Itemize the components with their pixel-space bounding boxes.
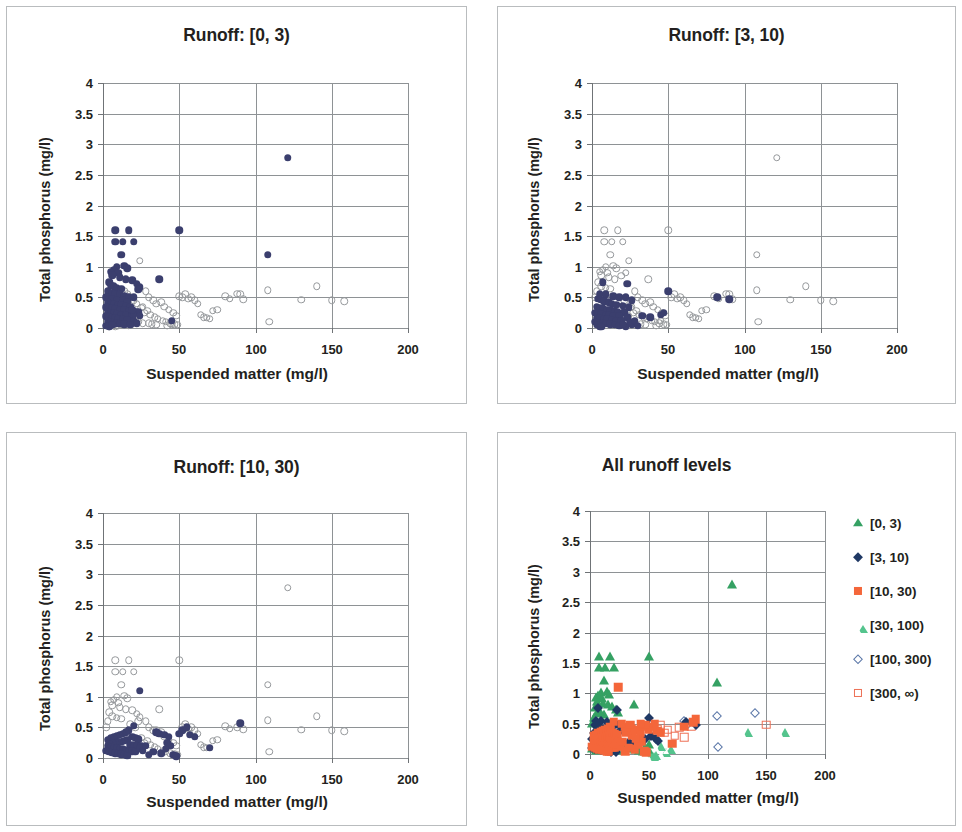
x-axis-tick-label: 150 [321,772,343,787]
gridline-vertical [766,511,767,754]
x-axis-tick-label: 200 [397,342,419,357]
y-axis-tick-label: 0 [57,751,93,766]
gridline-vertical [708,511,709,754]
data-point-filled-circle [646,313,654,321]
y-axis-label: Total phosphorus (mg/l) [37,566,53,731]
data-point-open-circle [111,668,119,676]
y-axis-tick-label: 2.5 [544,595,580,610]
data-point-filled-circle [191,733,199,741]
data-point-filled-square [680,722,689,731]
data-point-filled-square [853,587,861,595]
legend-item-label: [0, 3) [870,516,902,531]
x-axis-tick [590,754,591,759]
data-point-filled-square [636,719,645,728]
data-point-open-circle [119,668,127,676]
chart-panel-all-runoff-levels: All runoff levels Total phosphorus (mg/l… [497,432,956,826]
legend-item[interactable]: [300, ∞) [850,685,919,701]
legend-item-label: [3, 10) [870,550,909,565]
y-axis-tick-label: 1.5 [544,656,580,671]
data-point-open-circle [611,275,619,283]
x-axis-tick-label: 100 [245,342,267,357]
y-axis-tick-label: 0.5 [57,720,93,735]
data-point-filled-triangle [609,663,619,672]
y-axis-tick-label: 3 [57,137,93,152]
data-point-open-circle [265,748,273,756]
legend-item-label: [10, 30) [870,584,917,599]
legend-item[interactable]: [10, 30) [850,583,917,599]
legend-item[interactable]: [0, 3) [850,515,902,531]
gridline-vertical [256,83,257,328]
data-point-open-circle [226,725,234,733]
x-axis-tick-label: 150 [810,342,832,357]
data-point-filled-circle [168,317,176,325]
gridline-vertical [821,83,822,328]
data-point-open-circle [118,715,126,723]
y-axis-tick-label: 2 [57,199,93,214]
x-axis-tick-label: 0 [588,342,595,357]
data-point-filled-circle [156,275,164,283]
x-axis-tick [766,754,767,759]
gridline-vertical [745,83,746,328]
y-axis-tick-label: 1 [544,686,580,701]
gridline-vertical [332,513,333,758]
data-point-filled-square [632,735,641,744]
y-axis-tick-label: 3.5 [57,107,93,122]
y-axis-tick-label: 0 [546,321,582,336]
data-point-open-circle [264,681,272,689]
data-point-open-circle [753,286,761,294]
y-axis-tick-label: 2.5 [57,168,93,183]
data-point-open-circle [284,584,292,592]
data-point-filled-circle [119,238,127,246]
data-point-open-circle [240,295,248,303]
data-point-open-circle [608,238,616,246]
data-point-filled-circle [597,323,605,331]
y-axis-label: Total phosphorus (mg/l) [37,137,53,302]
data-point-open-circle [829,297,837,305]
data-point-filled-circle [165,733,173,741]
data-point-open-circle [264,716,272,724]
data-point-open-circle [600,238,608,246]
data-point-filled-circle [118,251,126,259]
data-point-filled-circle [124,264,132,272]
data-point-open-circle [328,297,336,305]
data-point-open-circle [773,154,781,162]
y-axis-tick-label: 2.5 [546,168,582,183]
four-panel-scatter-figure: Runoff: [0, 3) Total phosphorus (mg/l) 0… [0,0,962,832]
y-axis-tick-label: 2 [544,626,580,641]
data-point-filled-circle [713,294,721,302]
gridline-vertical [825,511,826,754]
data-point-open-circle [695,315,703,323]
data-point-open-circle [613,264,621,272]
x-axis-tick [708,754,709,759]
data-point-filled-square [656,728,665,737]
x-axis-tick-label: 200 [397,772,419,787]
data-point-filled-triangle [599,676,609,685]
y-axis-tick-label: 3.5 [546,107,582,122]
data-point-open-circle [313,713,321,721]
y-axis-tick-label: 0.5 [546,290,582,305]
x-axis-tick [897,328,898,333]
legend-item[interactable]: [30, 100) [850,617,924,633]
gridline-vertical [408,83,409,328]
data-point-filled-square [617,719,626,728]
x-axis-tick [256,758,257,763]
data-point-open-circle [214,736,222,744]
data-point-filled-triangle [644,651,654,660]
x-axis-tick-label: 0 [586,768,593,783]
data-point-filled-circle [124,752,132,760]
y-axis-tick-label: 0 [57,321,93,336]
data-point-open-circle [118,681,126,689]
panel-title: Runoff: [10, 30) [7,457,466,478]
data-point-filled-circle [125,226,133,234]
legend-marker-icon [850,550,865,564]
data-point-filled-circle [136,312,144,320]
legend-item[interactable]: [3, 10) [850,549,909,565]
legend-marker-icon [850,516,865,530]
x-axis-tick [821,328,822,333]
legend-marker-icon [850,652,865,666]
data-point-open-circle [298,296,306,304]
legend-item[interactable]: [100, 300) [850,651,932,667]
x-axis-tick-label: 100 [245,772,267,787]
data-point-filled-circle [237,719,245,727]
data-point-open-circle [156,705,164,713]
